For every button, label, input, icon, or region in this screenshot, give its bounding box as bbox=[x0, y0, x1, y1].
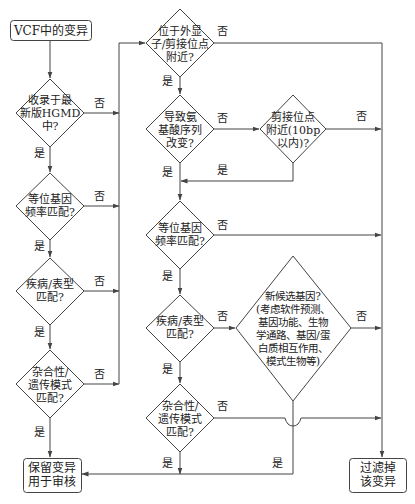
left-phenotype-label: 疾病/表型 匹配? bbox=[26, 278, 74, 304]
edge-label-no: 否 bbox=[217, 401, 228, 412]
edge-label-yes: 是 bbox=[34, 427, 45, 438]
edge-label-no: 否 bbox=[356, 311, 367, 322]
left-hgmd-label: 收录于最 新版HGMD 中? bbox=[20, 94, 80, 133]
edge-label-no: 否 bbox=[217, 220, 228, 231]
edge-label-no: 否 bbox=[94, 369, 105, 380]
flowchart-canvas bbox=[0, 0, 415, 504]
edge-label-no: 否 bbox=[94, 98, 105, 109]
edge-label-yes: 是 bbox=[272, 458, 283, 469]
filter-label: 过滤掉 该变异 bbox=[360, 461, 396, 489]
edge-label-yes: 是 bbox=[34, 241, 45, 252]
edge-label-no: 否 bbox=[217, 26, 228, 37]
edge-label-yes: 是 bbox=[162, 458, 173, 469]
edge-label-no: 否 bbox=[217, 311, 228, 322]
mid-exon-splice-label: 位于外显 子/剪接位点 附近? bbox=[151, 25, 210, 64]
edge-label-yes: 是 bbox=[34, 327, 45, 338]
edge-label-yes: 是 bbox=[34, 148, 45, 159]
edge-label-yes: 是 bbox=[162, 271, 173, 282]
edge-label-no: 否 bbox=[94, 191, 105, 202]
mid-zygosity-label: 杂合性/ 遗传模式 匹配? bbox=[158, 400, 202, 439]
edge-label-no: 否 bbox=[217, 113, 228, 124]
edge-label-yes: 是 bbox=[162, 364, 173, 375]
edge-label-no: 否 bbox=[94, 276, 105, 287]
keep-label: 保留变异 用于审核 bbox=[28, 461, 76, 489]
left-allele-freq-label: 等位基因 频率匹配? bbox=[25, 193, 75, 219]
splice-10bp-label: 剪接位点 附近(10bp 以内)? bbox=[266, 111, 320, 150]
mid-aa-change-label: 导致氨 基酸序列 改变? bbox=[158, 111, 202, 150]
mid-phenotype-label: 疾病/表型 匹配? bbox=[156, 315, 204, 341]
edge-label-no: 否 bbox=[356, 111, 367, 122]
edge-label-yes: 是 bbox=[217, 165, 228, 176]
edge-label-yes: 是 bbox=[162, 167, 173, 178]
edge-label-yes: 是 bbox=[162, 76, 173, 87]
candidate-gene-label: 新候选基因? (考虑软件预测、 基因功能、生物 学通路、基因/蛋 白质相互作用、… bbox=[256, 290, 330, 368]
start-label: VCF中的变异 bbox=[14, 24, 88, 38]
mid-allele-freq-label: 等位基因 频率匹配? bbox=[155, 222, 205, 248]
left-zygosity-label: 杂合性/ 遗传模式 匹配? bbox=[28, 366, 72, 405]
